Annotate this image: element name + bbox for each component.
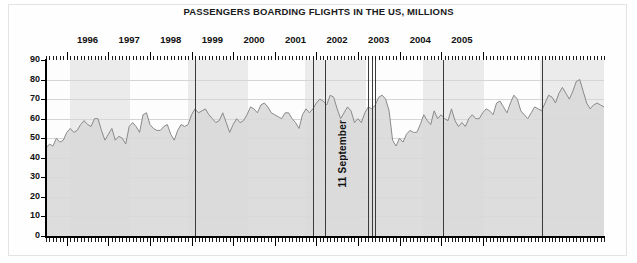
x-axis-tick-label: 2002 [327, 34, 348, 45]
x-axis-minor-tick [143, 238, 144, 242]
x-axis-minor-tick [105, 238, 106, 242]
x-axis-major-tick [67, 238, 68, 246]
x-axis-minor-tick [98, 238, 99, 242]
x-axis-minor-tick [129, 238, 130, 242]
x-axis-minor-tick [486, 238, 487, 242]
x-axis-minor-tick [282, 238, 283, 242]
x-axis-major-tick [192, 238, 193, 246]
x-axis-minor-tick [431, 238, 432, 242]
x-axis-minor-tick [448, 238, 449, 242]
x-axis-major-tick [150, 52, 151, 60]
x-axis-minor-tick [264, 238, 265, 242]
x-axis-tick-label: 2003 [368, 34, 389, 45]
x-axis-minor-tick [119, 238, 120, 242]
event-marker-line [372, 60, 373, 236]
x-axis-minor-tick [382, 238, 383, 242]
x-axis-minor-tick [500, 238, 501, 242]
x-axis-minor-tick [372, 238, 373, 242]
x-axis-minor-tick [427, 238, 428, 242]
x-axis-minor-tick [226, 238, 227, 242]
plot-area [46, 60, 604, 236]
x-axis-minor-tick [112, 238, 113, 242]
x-axis-tick-label: 2001 [285, 34, 306, 45]
x-axis-minor-tick [147, 238, 148, 242]
x-axis-minor-tick [476, 238, 477, 242]
bottom-axis-tick-strip [46, 238, 604, 247]
x-axis-minor-tick [507, 238, 508, 242]
x-axis-minor-tick [49, 238, 50, 242]
x-axis-minor-tick [365, 238, 366, 242]
x-axis-minor-tick [46, 238, 47, 242]
x-axis-minor-tick [199, 238, 200, 242]
x-axis-minor-tick [490, 238, 491, 242]
x-axis-major-tick [192, 52, 193, 60]
x-axis-major-tick [441, 238, 442, 246]
x-axis-minor-tick [153, 238, 154, 242]
x-axis-minor-tick [417, 238, 418, 242]
x-axis-major-tick [316, 238, 317, 246]
x-axis-minor-tick [517, 238, 518, 242]
x-axis-minor-tick [396, 238, 397, 242]
x-axis-minor-tick [63, 238, 64, 242]
x-axis-minor-tick [379, 238, 380, 242]
x-axis-minor-tick [74, 238, 75, 242]
x-axis-minor-tick [216, 238, 217, 242]
x-axis-minor-tick [271, 238, 272, 242]
x-axis-minor-tick [587, 238, 588, 242]
x-axis-major-tick [108, 238, 109, 246]
x-axis-major-tick [483, 52, 484, 60]
x-axis-minor-tick [240, 238, 241, 242]
x-axis-minor-tick [452, 238, 453, 242]
x-axis-minor-tick [524, 238, 525, 242]
x-axis-minor-tick [597, 238, 598, 242]
x-axis-minor-tick [140, 238, 141, 242]
x-axis-minor-tick [133, 238, 134, 242]
x-axis-minor-tick [306, 238, 307, 242]
x-axis-minor-tick [576, 238, 577, 242]
x-axis-minor-tick [469, 238, 470, 242]
x-axis-minor-tick [244, 238, 245, 242]
event-marker-line [443, 60, 444, 236]
x-axis-minor-tick [88, 238, 89, 242]
x-axis-major-tick [275, 238, 276, 246]
x-axis-minor-tick [309, 238, 310, 242]
x-axis-minor-tick [455, 238, 456, 242]
y-axis-tick-label: 30 [14, 172, 40, 181]
x-axis-minor-tick [562, 238, 563, 242]
x-axis-minor-tick [403, 238, 404, 242]
chart-title: PASSENGERS BOARDING FLIGHTS IN THE US, M… [0, 6, 637, 17]
x-axis-minor-tick [167, 238, 168, 242]
x-axis-minor-tick [493, 238, 494, 242]
x-axis-minor-tick [126, 238, 127, 242]
y-axis-tick-label: 60 [14, 114, 40, 123]
x-axis-minor-tick [458, 238, 459, 242]
event-marker-line [375, 60, 376, 236]
x-axis-minor-tick [413, 238, 414, 242]
y-axis-tick-label: 20 [14, 192, 40, 201]
x-axis-minor-tick [569, 238, 570, 242]
y-axis-tick-label: 80 [14, 75, 40, 84]
x-axis-major-tick [150, 238, 151, 246]
x-axis-minor-tick [171, 238, 172, 242]
x-axis-minor-tick [202, 238, 203, 242]
x-axis-major-tick [233, 238, 234, 246]
x-axis-minor-tick [472, 238, 473, 242]
x-axis-major-tick [67, 52, 68, 60]
x-axis-minor-tick [219, 238, 220, 242]
x-axis-minor-tick [337, 238, 338, 242]
x-axis-minor-tick [164, 238, 165, 242]
x-axis-minor-tick [56, 238, 57, 242]
x-axis-minor-tick [327, 238, 328, 242]
x-axis-major-tick [108, 52, 109, 60]
x-axis-minor-tick [250, 238, 251, 242]
x-axis-minor-tick [479, 238, 480, 242]
x-axis-tick-label: 1996 [77, 34, 98, 45]
x-axis-minor-tick [157, 238, 158, 242]
x-axis-major-tick [233, 52, 234, 60]
x-axis-minor-tick [313, 238, 314, 242]
y-axis-tick-label: 0 [14, 231, 40, 240]
x-axis-minor-tick [84, 238, 85, 242]
x-axis-major-tick [358, 52, 359, 60]
x-axis-minor-tick [77, 238, 78, 242]
x-axis-minor-tick [555, 238, 556, 242]
